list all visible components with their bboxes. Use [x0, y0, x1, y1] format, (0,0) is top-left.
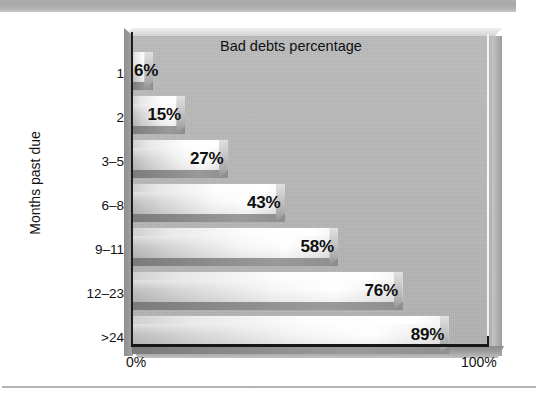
bar-shadow-band	[132, 302, 403, 310]
bad-debts-bar-chart: Bad debts percentage Months past due 1 2…	[0, 0, 539, 402]
bar-row: 43%	[132, 184, 285, 224]
bar-value-label: 89%	[411, 325, 444, 345]
bar-value-label: 58%	[300, 237, 333, 257]
y-axis-line	[131, 32, 133, 347]
gridline-100-percent	[487, 34, 489, 344]
bar-shadow-band	[132, 258, 338, 266]
bar-row: 27%	[132, 140, 228, 180]
bar-value-label: 6%	[134, 61, 158, 81]
bar-row: 89%	[132, 316, 449, 356]
bar[interactable]	[132, 272, 403, 312]
bar-shadow-band	[132, 214, 285, 222]
bar[interactable]	[132, 316, 449, 356]
bar-shadow-band	[132, 346, 449, 354]
bar-value-label: 27%	[190, 149, 223, 169]
bar-highlight-band	[132, 184, 285, 192]
chart-title: Bad debts percentage	[220, 38, 362, 54]
x-axis-line	[131, 344, 489, 347]
bar-highlight-band	[132, 272, 403, 280]
bar-row: 6%	[132, 52, 153, 92]
figure-root: Bad debts percentage Months past due 1 2…	[0, 0, 539, 402]
bar-row: 15%	[132, 96, 185, 136]
bar-highlight-band	[132, 316, 449, 324]
bar-row: 58%	[132, 228, 338, 268]
bar-highlight-band	[132, 228, 338, 236]
bar-value-label: 43%	[247, 193, 280, 213]
bar-value-label: 15%	[147, 105, 180, 125]
bar-highlight-band	[132, 140, 228, 148]
bar-value-label: 76%	[365, 281, 398, 301]
bar-body	[132, 280, 403, 302]
bar-series: 6%15%27%43%58%76%89%	[0, 0, 539, 402]
bar-shadow-band	[132, 170, 228, 178]
bar-body	[132, 324, 449, 346]
bar-row: 76%	[132, 272, 403, 312]
x-axis-tick-100	[487, 336, 489, 347]
